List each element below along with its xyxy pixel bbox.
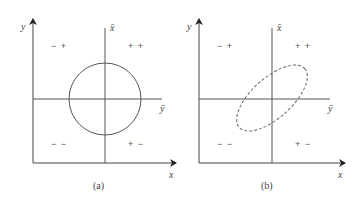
panel-a: y x̄ ȳ x − + + + − − + − (a) [20, 19, 176, 192]
quadrant-top-right: + + [128, 41, 144, 51]
quadrant-bottom-left: − − [217, 139, 233, 149]
caption-a: (a) [93, 180, 104, 192]
panel-b: y x̄ ȳ x − + + + − − + − (b) [186, 19, 345, 192]
quadrant-bottom-right: + − [295, 139, 311, 149]
mean-y-label: ȳ [327, 103, 333, 114]
quadrant-bottom-left: − − [51, 139, 67, 149]
quadrant-top-left: − + [51, 41, 67, 51]
x-axis-label: x [168, 169, 174, 180]
x-axis-label: x [337, 169, 343, 180]
mean-x-label: x̄ [276, 22, 282, 33]
quadrant-top-left: − + [217, 41, 233, 51]
caption-b: (b) [261, 180, 273, 192]
y-axis-label: y [20, 21, 26, 32]
y-axis-label: y [186, 21, 192, 32]
quadrant-top-right: + + [295, 41, 311, 51]
mean-x-label: x̄ [109, 22, 115, 33]
covariance-diagram: y x̄ ȳ x − + + + − − + − (a) y x̄ ȳ x − … [0, 0, 363, 203]
mean-y-label: ȳ [159, 103, 165, 114]
quadrant-bottom-right: + − [128, 139, 144, 149]
